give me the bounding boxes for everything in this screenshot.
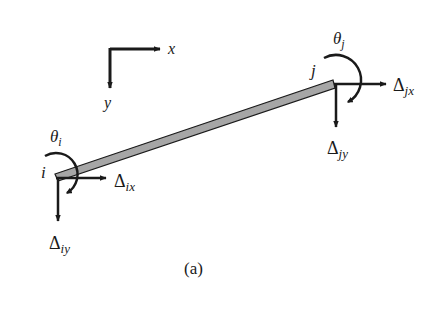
node-i: i θi Δix Δiy <box>41 127 135 256</box>
node-j: j θj Δjx Δjy <box>309 29 414 161</box>
rotation-j-arrow <box>324 55 361 102</box>
delta-jy-label: Δjy <box>327 138 348 161</box>
node-j-label: j <box>309 61 316 80</box>
delta-ix-label: Δix <box>114 171 135 194</box>
delta-iy-label: Δiy <box>49 233 70 256</box>
node-i-label: i <box>41 163 46 182</box>
global-axes: x y <box>102 40 175 112</box>
x-axis-label: x <box>167 40 175 57</box>
delta-jx-label: Δjx <box>393 75 414 98</box>
beam-member <box>55 80 335 181</box>
theta-j-label: θj <box>333 29 345 51</box>
y-axis-label: y <box>102 94 112 112</box>
beam-element-diagram: x y i θi Δix Δiy j θj Δjx <box>0 0 433 309</box>
figure-caption: (a) <box>184 259 203 278</box>
theta-i-label: θi <box>50 127 62 149</box>
